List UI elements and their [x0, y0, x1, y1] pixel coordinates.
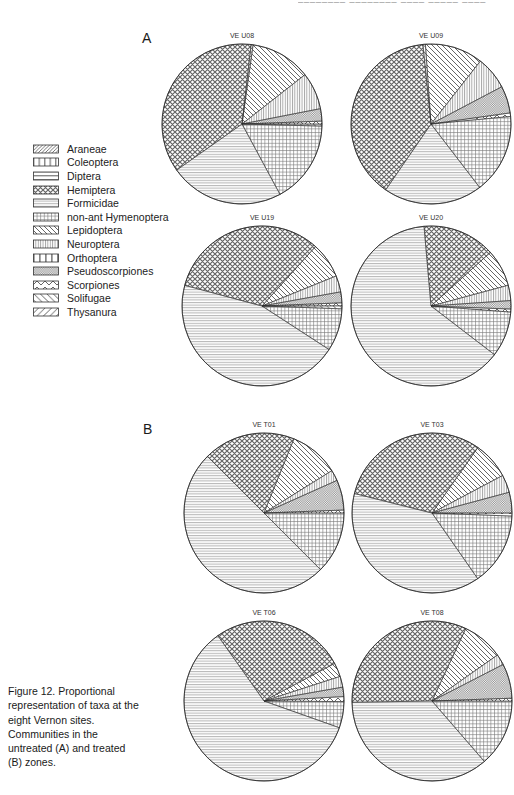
report-page: ________ ________ ____ _____ ____ A B Ar…	[0, 0, 514, 795]
pie-graphic	[350, 431, 514, 595]
pie-graphic	[349, 224, 513, 388]
pie-title: VE U09	[349, 29, 513, 42]
pie-chart-ve-u08: VE U08	[160, 29, 324, 206]
running-head-clipped: ________ ________ ____ _____ ____	[298, 0, 508, 4]
legend-swatch-nonant-icon	[33, 212, 60, 222]
legend-swatch-coleoptera-icon	[33, 157, 60, 167]
pie-graphic	[182, 619, 346, 783]
legend-swatch-solifugae-icon	[33, 293, 60, 303]
legend-item: Neuroptera	[33, 237, 169, 251]
figure-caption: Figure 12. Proportional representation o…	[8, 684, 140, 770]
pie-title: VE T01	[182, 418, 346, 431]
pie-title: VE T03	[350, 418, 514, 431]
group-b-label: B	[143, 421, 152, 437]
legend-swatch-lepidoptera-icon	[33, 225, 60, 235]
pie-chart-ve-u20: VE U20	[349, 211, 513, 388]
taxa-legend: AraneaeColeopteraDipteraHemipteraFormici…	[33, 142, 169, 319]
pie-chart-ve-t06: VE T06	[182, 606, 346, 783]
legend-label: Orthoptera	[67, 252, 117, 264]
legend-label: non-ant Hymenoptera	[67, 211, 169, 223]
legend-swatch-hemiptera-icon	[33, 185, 60, 195]
legend-label: Hemiptera	[67, 184, 115, 196]
legend-item: Scorpiones	[33, 278, 169, 292]
legend-label: Coleoptera	[67, 156, 118, 168]
pie-chart-ve-t01: VE T01	[182, 418, 346, 595]
group-a-label: A	[142, 30, 151, 46]
pie-title: VE T06	[182, 606, 346, 619]
pie-title: VE U19	[180, 211, 344, 224]
pie-graphic	[182, 431, 346, 595]
legend-label: Neuroptera	[67, 238, 120, 250]
legend-label: Pseudoscorpiones	[67, 265, 153, 277]
legend-item: Hemiptera	[33, 183, 169, 197]
legend-label: Solifugae	[67, 292, 111, 304]
legend-label: Scorpiones	[67, 279, 120, 291]
pie-chart-ve-t03: VE T03	[350, 418, 514, 595]
legend-swatch-formicidae-icon	[33, 198, 60, 208]
legend-item: non-ant Hymenoptera	[33, 210, 169, 224]
legend-label: Thysanura	[67, 306, 117, 318]
pie-title: VE U08	[160, 29, 324, 42]
pie-graphic	[349, 42, 513, 206]
legend-item: Coleoptera	[33, 156, 169, 170]
pie-title: VE U20	[349, 211, 513, 224]
pie-graphic	[160, 42, 324, 206]
legend-item: Solifugae	[33, 292, 169, 306]
legend-label: Formicidae	[67, 197, 119, 209]
legend-swatch-neuroptera-icon	[33, 239, 60, 249]
pie-chart-ve-u09: VE U09	[349, 29, 513, 206]
legend-swatch-araneae-icon	[33, 144, 60, 154]
legend-label: Araneae	[67, 143, 107, 155]
pie-chart-ve-u19: VE U19	[180, 211, 344, 388]
legend-swatch-thysanura-icon	[33, 307, 60, 317]
legend-item: Pseudoscorpiones	[33, 264, 169, 278]
pie-title: VE T08	[350, 606, 514, 619]
legend-swatch-diptera-icon	[33, 171, 60, 181]
pie-graphic	[350, 619, 514, 783]
legend-label: Diptera	[67, 170, 101, 182]
legend-item: Araneae	[33, 142, 169, 156]
legend-item: Formicidae	[33, 196, 169, 210]
running-head-text: ________ ________ ____ _____ ____	[298, 0, 508, 3]
legend-label: Lepidoptera	[67, 224, 122, 236]
legend-item: Thysanura	[33, 305, 169, 319]
legend-swatch-scorpiones-icon	[33, 280, 60, 290]
legend-item: Diptera	[33, 169, 169, 183]
legend-item: Orthoptera	[33, 251, 169, 265]
pie-chart-ve-t08: VE T08	[350, 606, 514, 783]
legend-swatch-pseudoscorpiones-icon	[33, 266, 60, 276]
legend-swatch-orthoptera-icon	[33, 253, 60, 263]
pie-graphic	[180, 224, 344, 388]
legend-item: Lepidoptera	[33, 224, 169, 238]
